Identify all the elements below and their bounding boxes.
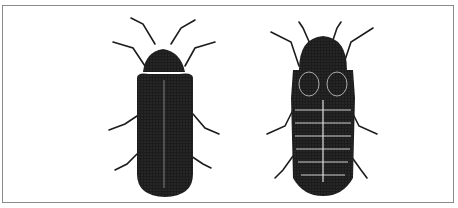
right-beetle-illustration xyxy=(3,6,453,202)
figure-frame: Line illustration of two beetles side by… xyxy=(2,5,454,203)
